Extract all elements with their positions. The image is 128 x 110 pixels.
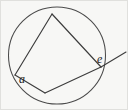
geometry-figure: a e bbox=[0, 0, 128, 110]
angle-label-a: a bbox=[19, 73, 25, 85]
figure-canvas bbox=[0, 0, 128, 110]
chord-right-top bbox=[52, 14, 101, 67]
angle-label-e: e bbox=[97, 53, 102, 65]
exterior-ray bbox=[101, 52, 126, 67]
